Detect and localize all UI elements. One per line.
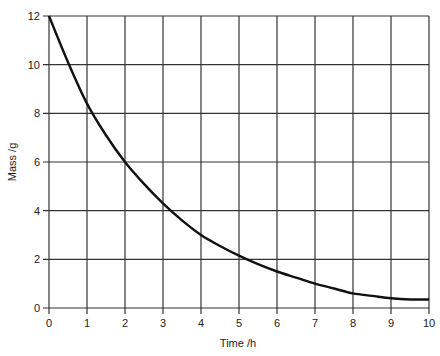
y-axis-label: Mass /g bbox=[6, 143, 18, 182]
y-tick-label: 0 bbox=[34, 302, 40, 314]
x-axis-ticks: 012345678910 bbox=[46, 317, 435, 329]
y-tick-label: 8 bbox=[34, 107, 40, 119]
x-tick-label: 1 bbox=[84, 317, 90, 329]
x-tick-label: 10 bbox=[423, 317, 435, 329]
y-tick-label: 10 bbox=[28, 59, 40, 71]
y-axis-ticks: 024681012 bbox=[28, 10, 40, 314]
x-tick-label: 9 bbox=[388, 317, 394, 329]
x-axis-label: Time /h bbox=[220, 337, 256, 349]
x-tick-label: 5 bbox=[236, 317, 242, 329]
y-tick-label: 12 bbox=[28, 10, 40, 22]
mass-time-chart: 012345678910 024681012 Time /h Mass /g bbox=[0, 0, 440, 356]
y-tick-label: 4 bbox=[34, 205, 40, 217]
x-tick-label: 7 bbox=[312, 317, 318, 329]
y-tick-label: 6 bbox=[34, 156, 40, 168]
x-tick-label: 6 bbox=[274, 317, 280, 329]
x-tick-label: 2 bbox=[122, 317, 128, 329]
x-tick-label: 3 bbox=[160, 317, 166, 329]
y-tick-label: 2 bbox=[34, 253, 40, 265]
x-tick-label: 0 bbox=[46, 317, 52, 329]
grid bbox=[43, 16, 429, 314]
x-tick-label: 4 bbox=[198, 317, 204, 329]
x-tick-label: 8 bbox=[350, 317, 356, 329]
